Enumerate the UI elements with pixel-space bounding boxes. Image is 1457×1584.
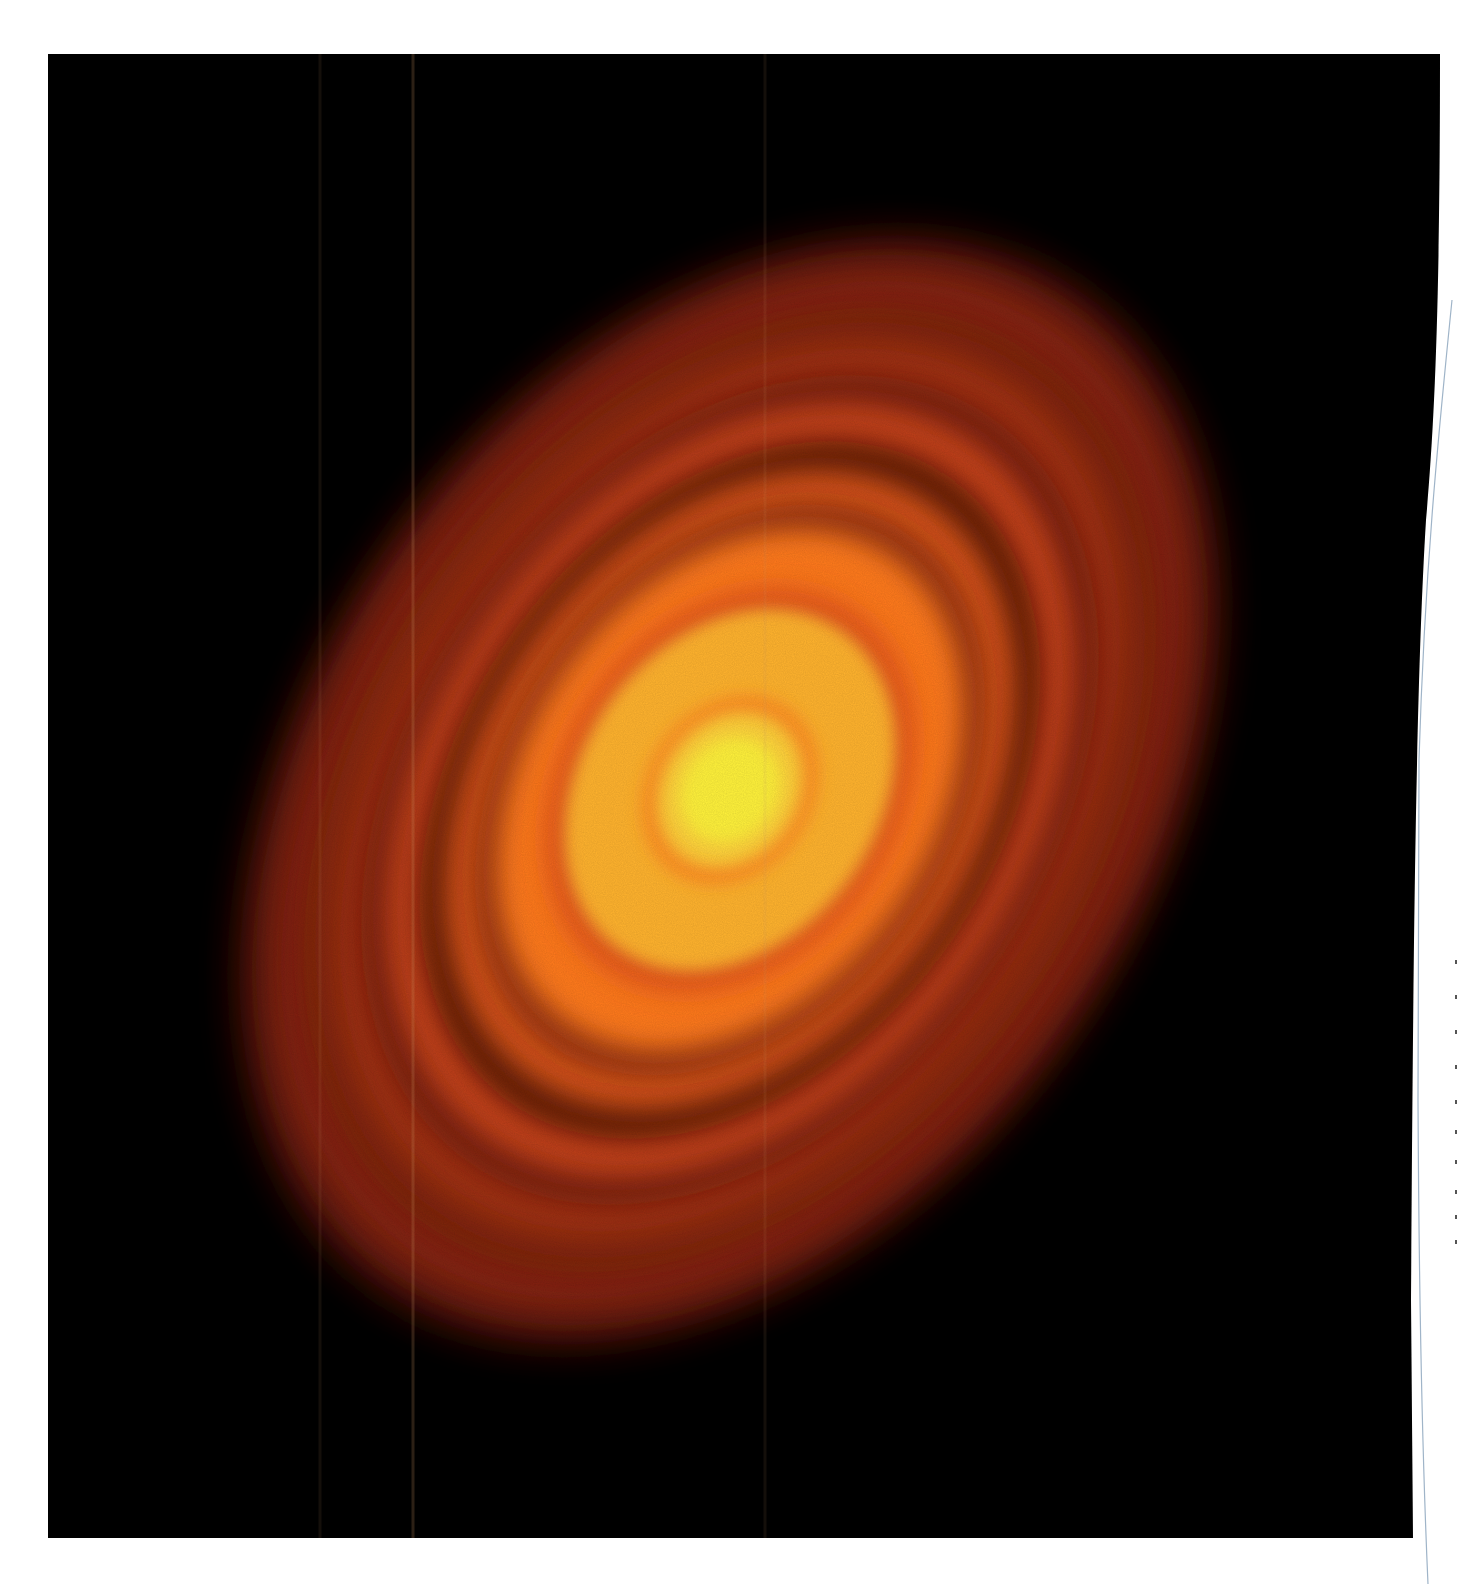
scan-streak xyxy=(319,54,322,1538)
disc-photograph xyxy=(0,0,1457,1584)
scan-streak xyxy=(764,54,767,1538)
scanned-photo-page xyxy=(0,0,1457,1584)
film-grain-texture xyxy=(0,0,1457,1584)
scan-streak xyxy=(412,54,415,1538)
